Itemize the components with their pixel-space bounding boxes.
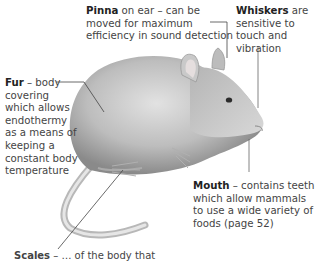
mouth-label: Mouth – contains teeth which allow mamma…	[193, 180, 318, 230]
mouth-term: Mouth	[193, 180, 230, 191]
ear-right	[212, 48, 225, 70]
bottom-clipped-label: Scales – … of the body that	[14, 250, 155, 262]
head	[190, 67, 264, 137]
fur-description: – body covering which allows endothermy …	[5, 77, 78, 176]
bottom-term: Scales	[14, 250, 50, 261]
bottom-description: – … of the body that	[50, 250, 155, 261]
whiskers-label: Whiskers are sensitive to touch and vibr…	[236, 5, 318, 55]
fur-term: Fur	[5, 77, 24, 88]
pinna-label: Pinna on ear – can be moved for maximum …	[86, 5, 236, 43]
pinna-term: Pinna	[86, 5, 118, 16]
eye	[226, 97, 232, 102]
whiskers-term: Whiskers	[236, 5, 289, 16]
fur-label: Fur – body covering which allows endothe…	[5, 77, 79, 178]
